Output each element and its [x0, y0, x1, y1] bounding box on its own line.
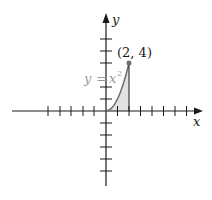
x-axis-label: x: [193, 114, 201, 129]
y-axis-arrow-icon: [103, 13, 110, 23]
point-2-4: [127, 61, 132, 66]
eq-equals: =: [96, 71, 107, 86]
point-label: (2, 4): [117, 45, 152, 60]
eq-x: x: [109, 71, 117, 86]
eq-exponent: 2: [117, 69, 122, 78]
y-axis-label: y: [111, 12, 120, 27]
eq-y: y: [83, 71, 92, 86]
curve-equation-label: y = x 2: [83, 69, 122, 86]
graph-canvas: (2, 4) y x y = x 2: [0, 0, 212, 200]
